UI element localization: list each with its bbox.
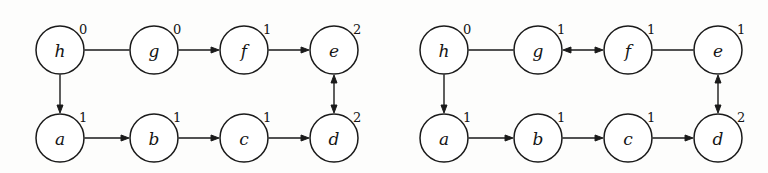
- node-number-f: 1: [263, 22, 271, 37]
- node-letter-h: h: [439, 41, 450, 61]
- node-letter-g: g: [149, 41, 160, 61]
- node-f[interactable]: f1: [220, 22, 271, 75]
- node-letter-e: e: [713, 41, 723, 61]
- node-number-c: 1: [263, 110, 271, 125]
- arrowhead-icon: [331, 75, 337, 83]
- node-letter-c: c: [239, 129, 249, 149]
- node-number-b: 1: [173, 110, 181, 125]
- node-letter-g: g: [533, 41, 544, 61]
- node-a[interactable]: a1: [420, 110, 471, 163]
- node-number-f: 1: [647, 22, 655, 37]
- node-number-h: 0: [463, 22, 471, 37]
- node-letter-e: e: [329, 41, 339, 61]
- arrowhead-icon: [595, 135, 603, 141]
- arrowhead-icon: [301, 135, 309, 141]
- node-e[interactable]: e2: [310, 22, 361, 75]
- node-a[interactable]: a1: [36, 110, 87, 163]
- arrowhead-icon: [331, 105, 337, 113]
- arrowhead-icon: [301, 47, 309, 53]
- node-b[interactable]: b1: [514, 110, 565, 163]
- arrowhead-icon: [685, 135, 693, 141]
- node-d[interactable]: d2: [694, 110, 745, 163]
- arrowhead-icon: [211, 47, 219, 53]
- arrowhead-icon: [715, 75, 721, 83]
- node-letter-a: a: [439, 129, 449, 149]
- right-graph-panel: h0g1f1e1a1b1c1d2: [384, 0, 768, 173]
- arrowhead-icon: [595, 47, 603, 53]
- left-graph-panel: h0g0f1e2a1b1c1d2: [0, 0, 384, 173]
- node-letter-d: d: [329, 129, 340, 149]
- arrowhead-icon: [441, 105, 447, 113]
- node-number-c: 1: [647, 110, 655, 125]
- arrowhead-icon: [57, 105, 63, 113]
- node-letter-b: b: [533, 129, 544, 149]
- node-number-d: 2: [353, 110, 361, 125]
- arrowhead-icon: [121, 135, 129, 141]
- arrowhead-icon: [715, 105, 721, 113]
- arrowhead-icon: [211, 135, 219, 141]
- node-b[interactable]: b1: [130, 110, 181, 163]
- node-number-d: 2: [737, 110, 745, 125]
- node-number-a: 1: [463, 110, 471, 125]
- edge-layer: [57, 47, 337, 141]
- node-e[interactable]: e1: [694, 22, 745, 75]
- node-c[interactable]: c1: [604, 110, 655, 163]
- left-graph: h0g0f1e2a1b1c1d2: [0, 0, 384, 173]
- node-letter-a: a: [55, 129, 65, 149]
- node-g[interactable]: g1: [514, 22, 565, 75]
- node-f[interactable]: f1: [604, 22, 655, 75]
- node-number-h: 0: [79, 22, 87, 37]
- node-letter-d: d: [713, 129, 724, 149]
- node-number-e: 1: [737, 22, 745, 37]
- node-letter-b: b: [149, 129, 160, 149]
- arrowhead-icon: [505, 135, 513, 141]
- node-g[interactable]: g0: [130, 22, 181, 75]
- node-number-b: 1: [557, 110, 565, 125]
- figure-container: h0g0f1e2a1b1c1d2 h0g1f1e1a1b1c1d2: [0, 0, 768, 173]
- node-h[interactable]: h0: [420, 22, 471, 75]
- node-number-e: 2: [353, 22, 361, 37]
- right-graph: h0g1f1e1a1b1c1d2: [384, 0, 768, 173]
- node-number-a: 1: [79, 110, 87, 125]
- node-number-g: 1: [557, 22, 565, 37]
- node-letter-c: c: [623, 129, 633, 149]
- node-h[interactable]: h0: [36, 22, 87, 75]
- node-number-g: 0: [173, 22, 181, 37]
- arrowhead-icon: [563, 47, 571, 53]
- edge-layer: [441, 47, 721, 141]
- node-c[interactable]: c1: [220, 110, 271, 163]
- node-letter-h: h: [55, 41, 66, 61]
- node-d[interactable]: d2: [310, 110, 361, 163]
